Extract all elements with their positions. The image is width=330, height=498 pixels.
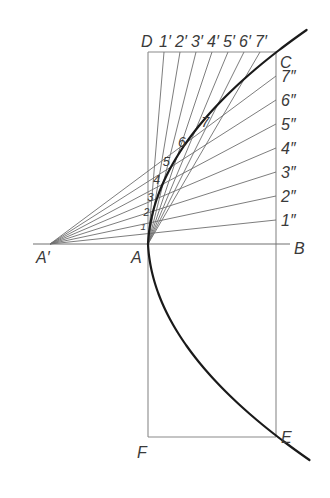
label-top-point-1: 1′ — [159, 33, 172, 50]
ray-A-to-top-1 — [148, 52, 164, 244]
label-curve-point-3: 3 — [147, 191, 154, 203]
label-curve-point-5: 5 — [163, 154, 171, 169]
label-top-point-3: 3′ — [191, 33, 204, 50]
label-top-point-2: 2′ — [174, 33, 188, 50]
label-curve-point-4: 4 — [153, 173, 160, 187]
label-right-point-1: 1″ — [281, 212, 297, 229]
point-labels: D C A A′ B E F — [35, 33, 305, 461]
label-B: B — [294, 240, 305, 257]
label-top-point-6: 6′ — [239, 33, 252, 50]
construction-frame — [33, 52, 290, 437]
label-top-point-4: 4′ — [207, 33, 220, 50]
label-D: D — [141, 33, 153, 50]
label-curve-point-2: 2 — [143, 206, 150, 218]
ray-A-prime-to-right-1 — [50, 220, 276, 244]
ray-A-to-top-3 — [148, 52, 196, 244]
label-top-point-5: 5′ — [223, 33, 236, 50]
parabola-construction-diagram: D C A A′ B E F 1′2′3′4′5′6′7′ 1″2″3″4″5″… — [0, 0, 330, 498]
right-edge-division-labels: 1″2″3″4″5″6″7″ — [280, 68, 297, 229]
ray-A-to-top-6 — [148, 52, 244, 244]
label-curve-point-1: 1 — [141, 221, 146, 232]
label-right-point-5: 5″ — [281, 116, 297, 133]
label-right-point-3: 3″ — [281, 164, 297, 181]
ray-A-to-top-5 — [148, 52, 228, 244]
top-edge-division-labels: 1′2′3′4′5′6′7′ — [159, 33, 268, 50]
label-curve-point-7: 7 — [201, 114, 210, 130]
ray-A-prime-to-right-2 — [50, 196, 276, 244]
ray-A-prime-to-right-6 — [50, 100, 276, 244]
label-right-point-2: 2″ — [280, 188, 297, 205]
label-right-point-7: 7″ — [281, 68, 297, 85]
label-top-point-7: 7′ — [255, 33, 268, 50]
label-A: A — [130, 249, 142, 266]
label-curve-point-6: 6 — [178, 135, 186, 150]
label-right-point-6: 6″ — [281, 92, 297, 109]
label-E: E — [281, 429, 292, 446]
label-F: F — [137, 444, 148, 461]
label-A-prime: A′ — [35, 249, 51, 266]
curve-point-labels: 1234567 — [141, 114, 211, 232]
label-right-point-4: 4″ — [281, 140, 297, 157]
